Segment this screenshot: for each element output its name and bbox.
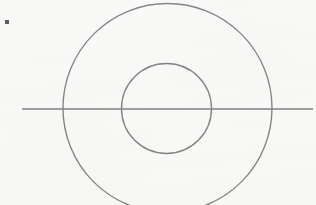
figure-svg: Concentric circles with horizontal diame…: [0, 0, 316, 205]
drawing-canvas: Concentric circles with horizontal diame…: [0, 0, 316, 205]
canvas-background: [0, 0, 316, 205]
corner-marker-icon: [5, 20, 9, 24]
